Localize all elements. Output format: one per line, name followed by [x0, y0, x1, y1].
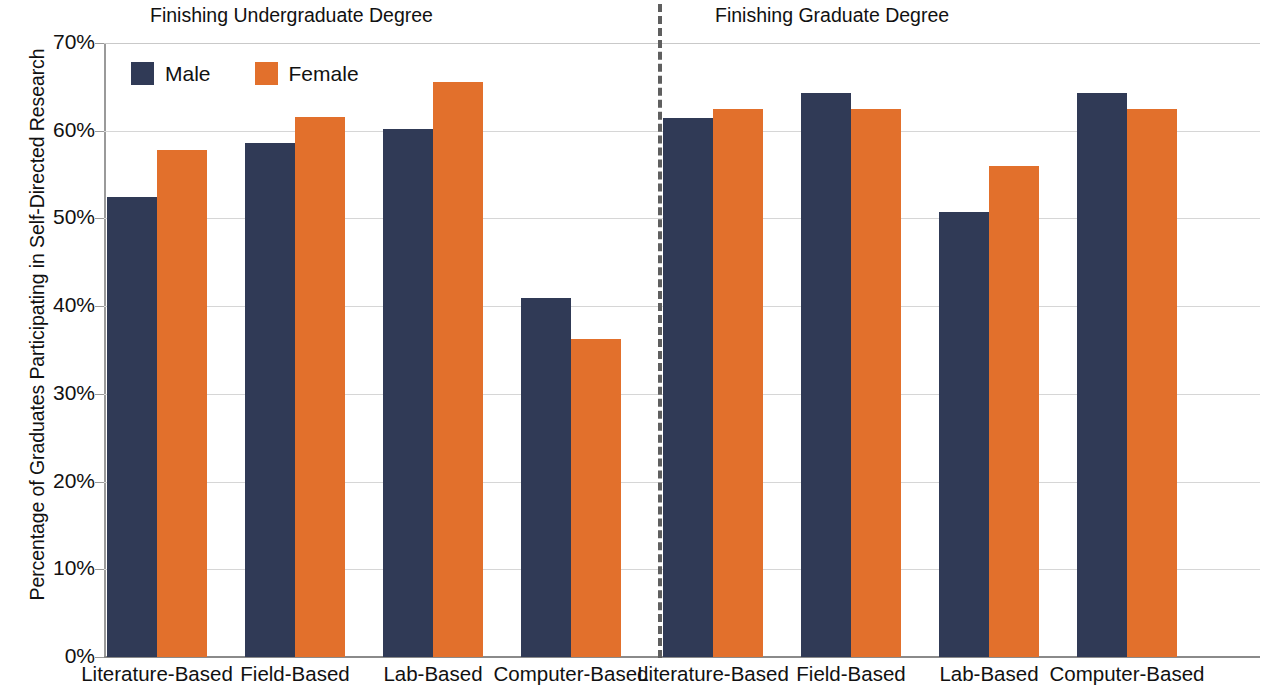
legend-swatch-male — [131, 62, 154, 85]
y-axis-tick-mark — [95, 306, 104, 307]
y-axis-tick-mark — [95, 394, 104, 395]
panel-title-undergraduate: Finishing Undergraduate Degree — [150, 4, 433, 27]
bar-male-field-based-panel1 — [245, 143, 295, 657]
bar-female-field-based-panel1 — [295, 117, 345, 657]
x-axis-label-lab-based-panel2: Lab-Based — [939, 662, 1038, 686]
gridline — [104, 43, 1260, 44]
chart-legend: Male Female — [131, 62, 359, 85]
y-axis-tick-label: 10% — [9, 556, 95, 580]
x-axis-label-literature-based-panel1: Literature-Based — [81, 662, 233, 686]
y-axis-ticks: 70%60%50%40%30%20%10%0% — [0, 43, 96, 657]
panel-divider — [658, 4, 662, 658]
y-axis-tick-mark — [95, 131, 104, 132]
y-axis-tick-mark — [95, 657, 104, 658]
y-axis-tick-mark — [95, 43, 104, 44]
x-axis-label-field-based-panel2: Field-Based — [796, 662, 905, 686]
bar-male-field-based-panel2 — [801, 93, 851, 657]
plot-area — [104, 43, 1260, 657]
bar-male-computer-based-panel2 — [1077, 93, 1127, 657]
bar-chart: Percentage of Graduates Participating in… — [0, 0, 1265, 698]
legend-entry-male: Male — [131, 62, 211, 85]
bar-female-lab-based-panel1 — [433, 82, 483, 657]
x-axis-label-field-based-panel1: Field-Based — [240, 662, 349, 686]
x-axis-label-literature-based-panel2: Literature-Based — [637, 662, 789, 686]
y-axis-tick-label: 50% — [9, 205, 95, 229]
bar-female-literature-based-panel1 — [157, 150, 207, 657]
bar-female-field-based-panel2 — [851, 109, 901, 657]
y-axis-tick-mark — [95, 218, 104, 219]
legend-entry-female: Female — [255, 62, 359, 85]
y-axis-tick-mark — [95, 569, 104, 570]
y-axis-tick-label: 70% — [9, 30, 95, 54]
y-axis-tick-label: 60% — [9, 118, 95, 142]
legend-swatch-female — [255, 62, 278, 85]
bar-female-computer-based-panel2 — [1127, 109, 1177, 657]
legend-label-female: Female — [289, 63, 359, 84]
bar-male-literature-based-panel1 — [107, 197, 157, 658]
bar-male-lab-based-panel2 — [939, 212, 989, 657]
x-axis-label-computer-based-panel2: Computer-Based — [1050, 662, 1205, 686]
bar-male-literature-based-panel2 — [663, 118, 713, 657]
bar-female-computer-based-panel1 — [571, 339, 621, 657]
x-axis-label-computer-based-panel1: Computer-Based — [494, 662, 649, 686]
bar-female-literature-based-panel2 — [713, 109, 763, 657]
x-axis-label-lab-based-panel1: Lab-Based — [383, 662, 482, 686]
bar-male-lab-based-panel1 — [383, 129, 433, 657]
legend-label-male: Male — [165, 63, 211, 84]
bar-female-lab-based-panel2 — [989, 166, 1039, 657]
y-axis-tick-label: 40% — [9, 293, 95, 317]
y-axis-tick-mark — [95, 482, 104, 483]
panel-title-graduate: Finishing Graduate Degree — [715, 4, 949, 27]
x-axis-category-labels: Literature-BasedField-BasedLab-BasedComp… — [104, 662, 1260, 696]
y-axis-tick-label: 20% — [9, 469, 95, 493]
bar-male-computer-based-panel1 — [521, 298, 571, 657]
y-axis-tick-label: 30% — [9, 381, 95, 405]
